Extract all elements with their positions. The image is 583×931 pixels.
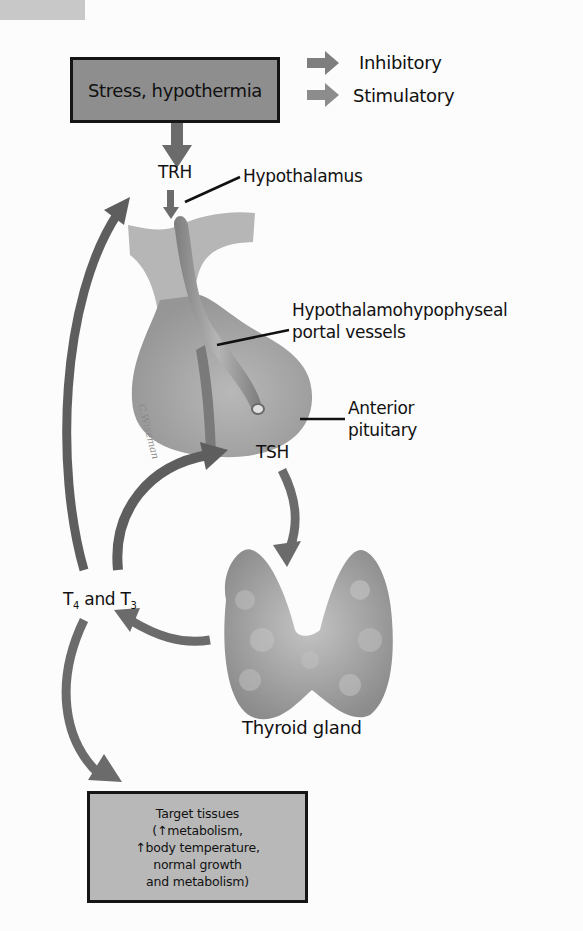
trh-down-arrow-icon bbox=[163, 190, 179, 219]
target-tissues-line-4: normal growth bbox=[153, 856, 242, 873]
t3-subscript: 3 bbox=[131, 600, 137, 611]
feedback-arrow-to-pituitary-icon bbox=[117, 442, 228, 570]
hormones-label: T4 and T3 bbox=[63, 589, 137, 616]
anterior-pituitary-label-line1: Anterior bbox=[348, 398, 414, 419]
thyroid-gland-label: Thyroid gland bbox=[242, 717, 362, 738]
portal-vessels-label-line1: Hypothalamohypophyseal bbox=[292, 300, 508, 321]
target-tissues-box: Target tissues (↑metabolism, ↑body tempe… bbox=[87, 791, 308, 903]
target-tissues-line-2: (↑metabolism, bbox=[152, 822, 242, 839]
tsh-to-thyroid-arrow-icon bbox=[273, 470, 301, 567]
hormones-to-target-arrow-icon bbox=[66, 620, 122, 782]
hypothalamus-label: Hypothalamus bbox=[243, 166, 363, 187]
hypothalamus-leader-line bbox=[185, 177, 240, 202]
target-tissues-line-5: and metabolism) bbox=[146, 873, 249, 890]
legend-inhibitory-arrow-icon bbox=[307, 51, 339, 75]
legend-inhibitory-label: Inhibitory bbox=[359, 52, 442, 73]
stimulus-box: Stress, hypothermia bbox=[70, 57, 280, 123]
target-tissues-line-3: ↑body temperature, bbox=[135, 839, 259, 856]
pituitary-illustration: C.Wiseman bbox=[128, 212, 312, 460]
portal-vessels-label-line2: portal vessels bbox=[292, 322, 405, 343]
thyroid-gland-illustration bbox=[224, 549, 392, 719]
tsh-label: TSH bbox=[256, 442, 289, 463]
trh-label: TRH bbox=[158, 162, 192, 183]
t4-text: T bbox=[63, 589, 73, 609]
feedback-arrow-to-hypothalamus-icon bbox=[67, 197, 130, 570]
legend-stimulatory-label: Stimulatory bbox=[353, 85, 454, 106]
target-tissues-line-1: Target tissues bbox=[156, 805, 239, 822]
legend-stimulatory-arrow-icon bbox=[307, 83, 339, 107]
stimulus-label: Stress, hypothermia bbox=[88, 80, 262, 101]
anterior-pituitary-label-line2: pituitary bbox=[348, 420, 417, 441]
and-t3-text: and T bbox=[79, 589, 130, 609]
